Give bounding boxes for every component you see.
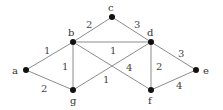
- edge-weights: 1 2 2 3 1 1 4 1 2 3 4: [41, 19, 184, 94]
- node-f: [148, 87, 154, 93]
- node-g: [70, 87, 76, 93]
- node-b: [70, 39, 76, 45]
- weight-d-e: 3: [178, 48, 184, 59]
- label-b: b: [68, 27, 74, 38]
- label-g: g: [70, 95, 77, 106]
- weight-f-e: 4: [176, 80, 182, 91]
- edge-c-d: [112, 17, 151, 42]
- edge-a-g: [26, 70, 73, 90]
- node-e: [193, 67, 199, 73]
- weight-a-g: 2: [41, 83, 47, 94]
- weight-c-d: 3: [134, 19, 140, 30]
- weight-a-b: 1: [44, 45, 50, 56]
- weight-b-d: 1: [110, 45, 116, 56]
- node-c: [109, 14, 115, 20]
- label-a: a: [12, 65, 18, 76]
- edge-f-e: [151, 70, 196, 90]
- weight-g-d: 1: [103, 74, 109, 85]
- label-e: e: [203, 65, 209, 76]
- weight-b-c: 2: [86, 19, 92, 30]
- weight-d-f: 2: [156, 61, 162, 72]
- node-a: [23, 67, 29, 73]
- weight-b-g: 1: [62, 61, 68, 72]
- weight-b-f: 4: [126, 62, 132, 73]
- edge-b-c: [73, 17, 112, 42]
- weighted-graph: 1 2 2 3 1 1 4 1 2 3 4 a b c d e f g: [0, 0, 223, 110]
- label-d: d: [147, 27, 154, 38]
- label-c: c: [108, 2, 114, 13]
- label-f: f: [148, 95, 153, 106]
- node-d: [148, 39, 154, 45]
